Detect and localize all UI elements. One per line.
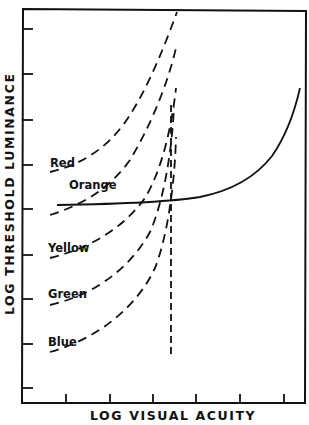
chart: Red Orange Yellow Green Blue LOG VISUAL … <box>0 0 309 425</box>
y-axis-title: LOG THRESHOLD LUMINANCE <box>2 72 17 315</box>
yellow-curve <box>50 88 176 258</box>
blue-label: Blue <box>48 335 77 349</box>
x-axis-ticks <box>66 394 284 403</box>
red-curve <box>50 12 177 172</box>
yellow-label: Yellow <box>47 241 90 255</box>
green-curve <box>50 107 174 305</box>
red-label: Red <box>50 156 75 170</box>
x-axis-title: LOG VISUAL ACUITY <box>90 408 256 423</box>
green-label: Green <box>48 287 87 301</box>
y-axis-ticks <box>23 29 33 388</box>
orange-label: Orange <box>69 178 117 192</box>
